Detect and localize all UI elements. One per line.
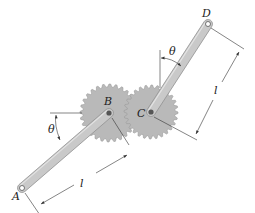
- theta-left-arrow-bottom: [57, 136, 60, 140]
- link-CD-bar: [145, 18, 214, 118]
- dim-CD-line-1: [222, 52, 239, 82]
- dim-AB-label: l: [80, 178, 84, 189]
- dim-CD-arrow-D: [236, 52, 239, 56]
- theta-left-arrow-top: [55, 115, 58, 119]
- dim-AB-arrow-A: [41, 201, 45, 204]
- label-B: B: [104, 96, 112, 107]
- pin-B: [106, 110, 111, 115]
- dim-CD-arrow-C: [196, 130, 199, 134]
- link-CD: [145, 18, 214, 118]
- label-D: D: [202, 8, 211, 19]
- theta-top-label: θ: [169, 46, 176, 57]
- theta-top-arrow-left: [161, 57, 165, 60]
- link-CD-highlight: [148, 22, 205, 110]
- theta-left-label: θ: [48, 124, 55, 135]
- dim-AB-ext-A: [25, 193, 42, 213]
- link-AB-bar: [16, 107, 116, 195]
- pin-C: [148, 109, 153, 114]
- link-AB-highlight: [20, 111, 107, 186]
- dim-AB-line-1: [41, 185, 74, 204]
- label-C: C: [137, 108, 145, 119]
- dim-CD-label: l: [214, 85, 218, 96]
- mechanism-diagram: A B C D θ θ l l: [0, 0, 255, 213]
- label-A: A: [12, 191, 20, 202]
- link-AB: [16, 107, 116, 195]
- pin-D: [206, 22, 211, 27]
- dim-CD-ext-D: [211, 28, 244, 49]
- dim-AB-arrow-B: [123, 155, 127, 158]
- dim-AB-line-2: [96, 155, 127, 173]
- pin-A: [20, 186, 25, 191]
- dim-CD-line-2: [196, 100, 213, 134]
- theta-left-arc: [56, 115, 61, 140]
- diagram-canvas: [0, 0, 255, 213]
